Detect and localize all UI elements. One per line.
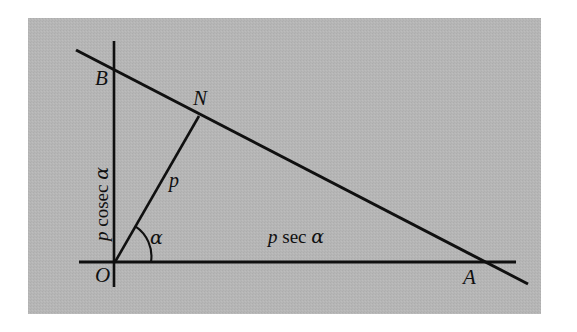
y-intercept-angle: α (90, 167, 112, 180)
perpendicular-length-label-p: p (169, 170, 179, 190)
y-intercept-function: cosec (91, 185, 112, 227)
geometry-figure: O B N A p α p cosec α p sec α (0, 0, 577, 332)
angle-label-alpha: α (150, 228, 163, 247)
x-intercept-length-label: p sec α (268, 227, 324, 246)
point-label-A: A (463, 267, 476, 288)
y-intercept-variable: p (91, 232, 112, 242)
point-label-N: N (193, 88, 207, 109)
diagram-canvas (0, 0, 577, 332)
x-intercept-function: sec (282, 226, 306, 247)
y-intercept-length-label: p cosec α (92, 167, 111, 241)
x-intercept-angle: α (311, 225, 324, 247)
point-label-O: O (95, 265, 110, 286)
point-label-B: B (95, 68, 108, 89)
x-intercept-variable: p (268, 226, 278, 247)
